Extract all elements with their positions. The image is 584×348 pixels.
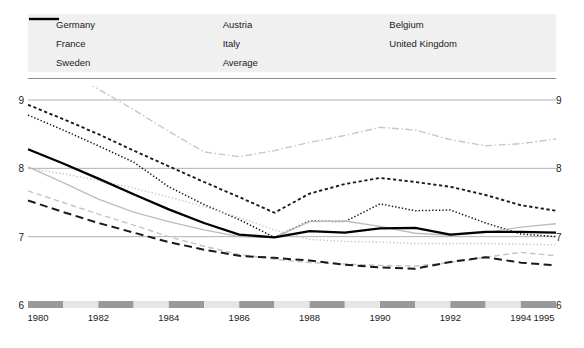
x-axis-tick-1994: 1994 bbox=[510, 312, 531, 323]
legend-item-france[interactable]: France bbox=[56, 34, 223, 53]
x-axis-bar-segment bbox=[98, 301, 133, 308]
series-line-average bbox=[28, 149, 556, 237]
legend-item-united-kingdom[interactable]: United Kingdom bbox=[389, 34, 556, 53]
legend-item-austria[interactable]: Austria bbox=[223, 15, 390, 34]
series-line-united-kingdom bbox=[28, 167, 556, 237]
x-axis-bar-segment bbox=[274, 301, 309, 308]
x-axis-bar-segment bbox=[521, 301, 556, 308]
legend-label: Italy bbox=[223, 39, 240, 49]
plot-area: 99887766 1980198219841986198819901992199… bbox=[0, 86, 584, 348]
legend-item-empty bbox=[389, 53, 556, 72]
line-chart-svg bbox=[0, 86, 584, 348]
x-axis-bar-segment bbox=[239, 301, 274, 308]
legend-swatch-average-icon bbox=[28, 14, 60, 24]
x-axis-bar-segment bbox=[169, 301, 204, 308]
x-axis-bar-segment bbox=[204, 301, 239, 308]
x-axis-tick-1995: 1995 bbox=[533, 312, 554, 323]
y-axis-tick-right-9: 9 bbox=[556, 95, 562, 106]
legend-label: Sweden bbox=[56, 58, 90, 68]
legend-item-belgium[interactable]: Belgium bbox=[389, 15, 556, 34]
x-axis-tick-1990: 1990 bbox=[369, 312, 390, 323]
x-axis-bar-segment bbox=[486, 301, 521, 308]
y-axis-tick-left-9: 9 bbox=[18, 95, 24, 106]
series-line-austria bbox=[28, 115, 556, 237]
x-axis-bar-segment bbox=[415, 301, 450, 308]
legend-label: Germany bbox=[56, 20, 95, 30]
x-axis-tick-1988: 1988 bbox=[299, 312, 320, 323]
chart-root: GermanyAustriaBelgiumFranceItalyUnited K… bbox=[0, 0, 584, 348]
series-line-germany bbox=[28, 105, 556, 213]
legend-label: France bbox=[56, 39, 86, 49]
y-axis-tick-right-8: 8 bbox=[556, 163, 562, 174]
x-axis-bar-segment bbox=[310, 301, 345, 308]
x-axis-tick-1980: 1980 bbox=[27, 312, 48, 323]
y-axis-tick-left-7: 7 bbox=[18, 231, 24, 242]
legend-item-italy[interactable]: Italy bbox=[223, 34, 390, 53]
x-axis-tick-1992: 1992 bbox=[440, 312, 461, 323]
series-line-sweden bbox=[28, 86, 556, 157]
x-axis-bar-segment bbox=[380, 301, 415, 308]
x-axis-bar-segment bbox=[450, 301, 485, 308]
legend-divider-rule bbox=[28, 78, 556, 79]
legend-grid: GermanyAustriaBelgiumFranceItalyUnited K… bbox=[28, 14, 556, 72]
y-axis-tick-left-6: 6 bbox=[18, 300, 24, 311]
x-axis-bar-segment bbox=[134, 301, 169, 308]
legend-label: United Kingdom bbox=[389, 39, 457, 49]
legend-item-germany[interactable]: Germany bbox=[56, 15, 223, 34]
x-axis-bar-segment bbox=[63, 301, 98, 308]
x-axis-tick-1986: 1986 bbox=[229, 312, 250, 323]
y-axis-tick-right-7: 7 bbox=[556, 231, 562, 242]
x-axis-tick-1984: 1984 bbox=[158, 312, 179, 323]
x-axis-bar-segment bbox=[28, 301, 63, 308]
legend-label: Average bbox=[223, 58, 258, 68]
legend-item-average[interactable]: Average bbox=[223, 53, 390, 72]
x-axis-bar-segment bbox=[345, 301, 380, 308]
chart-legend: GermanyAustriaBelgiumFranceItalyUnited K… bbox=[28, 14, 556, 72]
x-axis-tick-1982: 1982 bbox=[88, 312, 109, 323]
legend-label: Austria bbox=[223, 20, 253, 30]
y-axis-tick-left-8: 8 bbox=[18, 163, 24, 174]
legend-label: Belgium bbox=[389, 20, 423, 30]
y-axis-tick-right-6: 6 bbox=[556, 300, 562, 311]
legend-item-sweden[interactable]: Sweden bbox=[56, 53, 223, 72]
